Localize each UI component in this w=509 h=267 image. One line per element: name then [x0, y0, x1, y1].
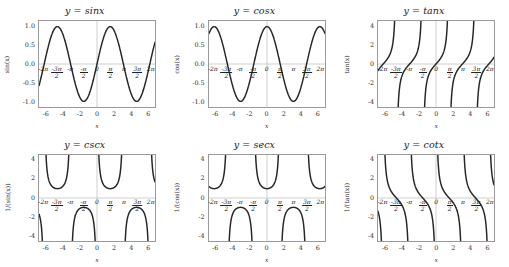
plot-area-csc: [38, 154, 156, 242]
x-tick: -2: [416, 110, 422, 118]
x-tick: -2: [246, 110, 252, 118]
y-tick: 0: [201, 194, 205, 202]
x-axis-label-sec: x: [208, 256, 326, 263]
x-tick: -6: [212, 244, 218, 252]
x-tick: -4: [399, 244, 405, 252]
x-axis-label-tan: x: [377, 122, 495, 129]
x-tick: 2: [282, 110, 286, 118]
trig-functions-figure: y = sinxsin(x)1.00.50.0-0.5-1.0-6-4-2024…: [0, 0, 509, 267]
y-tick: -1.0: [23, 98, 35, 106]
plot-panel-tan: y = tanxtan(x)420-2-4-6-4-20246-2π-3π2-π…: [339, 0, 509, 134]
x-tick-labels-cos: -6-4-20246: [208, 108, 326, 122]
x-tick: 4: [129, 244, 133, 252]
x-tick: 0: [95, 110, 99, 118]
x-tick: -6: [382, 244, 388, 252]
x-tick: 0: [434, 244, 438, 252]
x-axis-label-sin: x: [38, 122, 156, 129]
y-axis-label-sec: 1/(cos(x)): [171, 154, 183, 242]
plot-panel-sec: y = secx1/(cos(x))420-2-4-6-4-20246-2π-3…: [170, 134, 340, 267]
y-tick: -4: [368, 98, 374, 106]
y-tick: 0.5: [25, 41, 35, 49]
y-tick: 2: [370, 174, 374, 182]
plot-title-cot: y = cotx: [339, 139, 509, 150]
y-tick: 4: [370, 155, 374, 163]
x-tick-labels-sec: -6-4-20246: [208, 242, 326, 256]
x-tick: -2: [246, 244, 252, 252]
plot-area-cos: [208, 20, 326, 108]
y-tick: 0.5: [194, 41, 204, 49]
plot-title-cos: y = cosx: [170, 5, 340, 16]
y-tick: -2: [198, 213, 204, 221]
curve-svg-cot: [378, 155, 494, 241]
x-tick: -4: [229, 110, 235, 118]
x-tick-labels-sin: -6-4-20246: [38, 108, 156, 122]
x-tick: 0: [95, 244, 99, 252]
y-axis-label-text: 1/(cos(x)): [173, 183, 180, 213]
plot-panel-cos: y = cosxcos(x)1.00.50.0-0.5-1.0-6-4-2024…: [170, 0, 340, 134]
x-tick: -4: [60, 244, 66, 252]
y-axis-label-csc: 1/(sin(x)): [1, 154, 13, 242]
x-tick: 0: [265, 244, 269, 252]
curve-svg-tan: [378, 21, 494, 107]
x-tick-labels-csc: -6-4-20246: [38, 242, 156, 256]
plot-area-sec: [208, 154, 326, 242]
x-tick: 4: [299, 110, 303, 118]
y-axis-label-sin: sin(x): [1, 20, 13, 108]
y-axis-label-text: sin(x): [4, 55, 11, 72]
y-tick: 0: [31, 194, 35, 202]
y-tick: 1.0: [194, 22, 204, 30]
plot-title-tan: y = tanx: [339, 5, 509, 16]
plot-title-sin: y = sinx: [0, 5, 170, 16]
plot-title-csc: y = cscx: [0, 139, 170, 150]
x-axis-label-cos: x: [208, 122, 326, 129]
curve-svg-sec: [209, 155, 325, 241]
plot-area-sin: [38, 20, 156, 108]
y-tick: 0: [370, 60, 374, 68]
y-tick: -0.5: [192, 79, 204, 87]
y-axis-label-cos: cos(x): [171, 20, 183, 108]
y-tick: 4: [31, 155, 35, 163]
x-tick: 2: [451, 244, 455, 252]
y-axis-label-text: 1/(tan(x)): [343, 183, 350, 212]
y-tick: 0.0: [25, 60, 35, 68]
y-tick: -4: [368, 232, 374, 240]
x-tick: 6: [316, 110, 320, 118]
y-tick: 2: [201, 174, 205, 182]
x-tick-labels-tan: -6-4-20246: [377, 108, 495, 122]
x-tick: 2: [112, 110, 116, 118]
curve-svg-sin: [39, 21, 155, 107]
x-tick: 2: [112, 244, 116, 252]
plot-panel-sin: y = sinxsin(x)1.00.50.0-0.5-1.0-6-4-2024…: [0, 0, 170, 134]
x-tick: 6: [146, 110, 150, 118]
x-tick: 6: [485, 244, 489, 252]
y-axis-label-text: cos(x): [173, 55, 180, 74]
plot-area-tan: [377, 20, 495, 108]
y-tick: 4: [201, 155, 205, 163]
x-tick: 2: [451, 110, 455, 118]
y-tick: -2: [368, 79, 374, 87]
y-tick: -2: [368, 213, 374, 221]
curve-svg-cos: [209, 21, 325, 107]
x-tick: -6: [43, 110, 49, 118]
y-tick: -2: [29, 213, 35, 221]
y-tick: -0.5: [23, 79, 35, 87]
plot-panel-csc: y = cscx1/(sin(x))420-2-4-6-4-20246-2π-3…: [0, 134, 170, 267]
x-tick: 4: [468, 244, 472, 252]
y-tick: 2: [31, 174, 35, 182]
y-axis-label-text: tan(x): [343, 55, 350, 73]
y-tick: 2: [370, 41, 374, 49]
x-axis-label-cot: x: [377, 256, 495, 263]
y-tick: 4: [370, 22, 374, 30]
x-tick: 6: [485, 110, 489, 118]
y-tick: 0.0: [194, 60, 204, 68]
x-tick: -2: [416, 244, 422, 252]
x-tick: -4: [399, 110, 405, 118]
y-tick: -4: [198, 232, 204, 240]
x-tick: 4: [129, 110, 133, 118]
x-tick: -4: [229, 244, 235, 252]
x-tick: -6: [382, 110, 388, 118]
x-tick: 6: [316, 244, 320, 252]
curve-svg-csc: [39, 155, 155, 241]
y-tick: 0: [370, 194, 374, 202]
y-tick: 1.0: [25, 22, 35, 30]
